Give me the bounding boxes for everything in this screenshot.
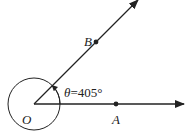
point-b-dot <box>94 40 99 45</box>
point-a-dot <box>114 102 119 107</box>
angle-value: =405° <box>70 85 102 100</box>
point-b-label: B <box>84 34 92 49</box>
angle-arc <box>52 86 60 104</box>
angle-label: θ=405° <box>64 85 102 100</box>
origin-label: O <box>22 112 32 127</box>
angle-diagram: O A B θ=405° <box>0 0 186 133</box>
point-a-label: A <box>111 112 120 127</box>
